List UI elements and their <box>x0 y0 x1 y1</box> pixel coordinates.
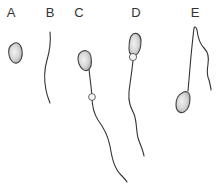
sperm-tail-b <box>45 32 51 103</box>
sperm-tail-e <box>188 27 211 91</box>
panel-a-detached-head <box>9 43 23 63</box>
sperm-drawings <box>0 0 218 186</box>
panel-e-bent-tail <box>176 27 211 113</box>
cytoplasmic-droplet-distal <box>89 94 96 101</box>
sperm-morphology-diagram: A B C D E <box>0 0 218 186</box>
panel-d-proximal-droplet <box>129 33 144 156</box>
sperm-tail-d <box>129 60 144 156</box>
sperm-head-a <box>9 43 23 63</box>
sperm-head-e <box>176 92 190 113</box>
sperm-head-d <box>129 33 141 55</box>
panel-b-detached-tail <box>45 32 51 103</box>
panel-c-distal-droplet <box>78 51 127 182</box>
sperm-head-c <box>78 51 91 71</box>
sperm-tail-c <box>89 69 127 182</box>
cytoplasmic-droplet-proximal <box>129 53 136 60</box>
